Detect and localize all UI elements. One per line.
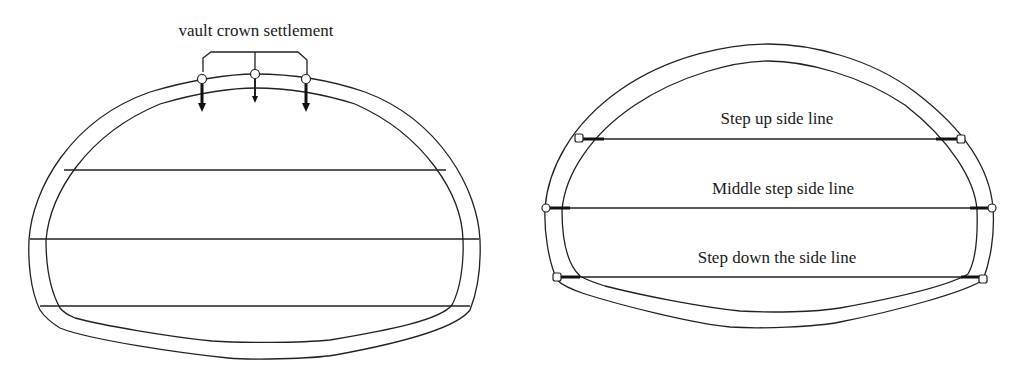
left-inner-lining bbox=[46, 88, 463, 342]
vault-crown-settlement-label: vault crown settlement bbox=[179, 21, 334, 40]
tunnel-monitoring-diagram: vault crown settlement bbox=[0, 0, 1029, 369]
left-outer-lining bbox=[29, 74, 480, 359]
right-tunnel-section: Step up side line Middle step side line … bbox=[542, 44, 996, 328]
crown-point-center bbox=[251, 70, 260, 104]
left-tunnel-section: vault crown settlement bbox=[29, 21, 480, 359]
step-down-side-line-label: Step down the side line bbox=[698, 248, 857, 267]
step-up-side-line-label: Step up side line bbox=[721, 109, 834, 128]
upper-measuring-line bbox=[575, 134, 965, 143]
lower-measuring-line bbox=[553, 273, 987, 283]
middle-step-side-line-label: Middle step side line bbox=[712, 179, 854, 198]
middle-measuring-line bbox=[542, 204, 996, 212]
